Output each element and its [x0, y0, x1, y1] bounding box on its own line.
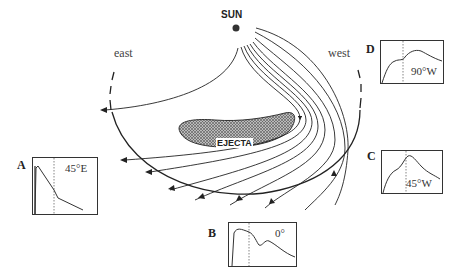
panel-a-letter: A [17, 158, 26, 173]
panel-c-angle: 45°W [406, 177, 432, 189]
east-label: east [114, 46, 133, 61]
panel-b-curve [229, 223, 296, 266]
sun-icon [233, 25, 240, 32]
panel-c-letter: C [367, 149, 376, 164]
panel-a-angle: 45°E [65, 162, 87, 174]
panel-b-letter: B [208, 226, 216, 241]
panel-d-letter: D [366, 42, 375, 57]
panel-d-plot: 90°W [380, 40, 444, 84]
panel-a-plot: 45°E [32, 157, 98, 215]
sun-label: SUN [221, 9, 242, 20]
magnetic-field-lines [105, 28, 348, 210]
panel-b-plot: 0° [228, 222, 297, 267]
west-label: west [328, 46, 350, 61]
panel-d-angle: 90°W [411, 65, 437, 77]
ejecta-label: EJECTA [216, 138, 253, 148]
panel-c-plot: 45°W [381, 150, 443, 194]
panel-b-angle: 0° [275, 227, 285, 239]
